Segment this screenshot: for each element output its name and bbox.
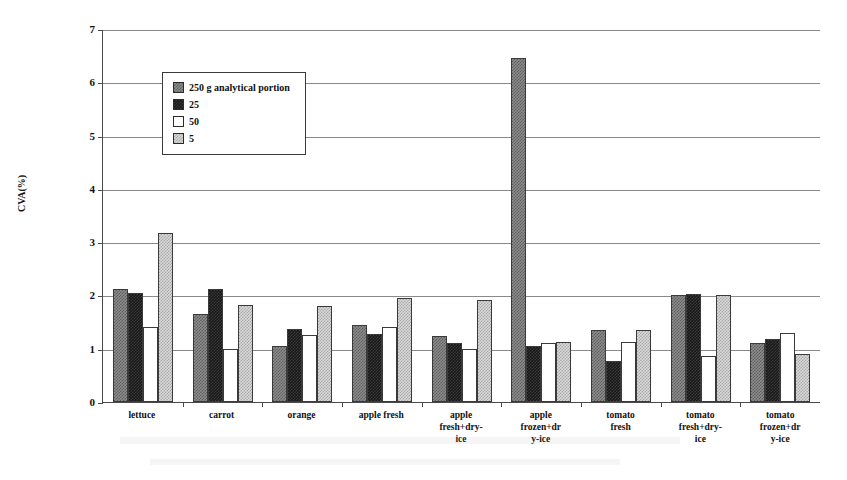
- x-tick-mark: [661, 402, 662, 407]
- bar: [636, 330, 651, 402]
- y-tick-label: 0: [55, 396, 95, 408]
- y-tick-label: 4: [55, 183, 95, 195]
- legend-label: 50: [189, 116, 199, 127]
- legend-swatch-icon: [173, 133, 184, 144]
- y-tick-label: 2: [55, 289, 95, 301]
- x-axis-category-label: tomatofrozen+dry-ice: [740, 409, 820, 445]
- bar: [447, 343, 462, 402]
- x-tick-mark: [740, 402, 741, 407]
- bar: [701, 356, 716, 402]
- bar-group: [342, 30, 422, 402]
- bar: [272, 346, 287, 402]
- legend-item-50: 50: [173, 113, 297, 130]
- bar: [113, 289, 128, 402]
- bar: [686, 294, 701, 402]
- bar: [462, 349, 477, 402]
- bar: [511, 58, 526, 402]
- legend-swatch-icon: [173, 99, 184, 110]
- legend-label: 250 g analytical portion: [189, 82, 290, 93]
- bar: [208, 289, 223, 402]
- bar: [352, 325, 367, 402]
- chart-legend: 250 g analytical portion 25 50 5: [162, 72, 306, 155]
- scan-artifact: [120, 437, 680, 444]
- bar: [765, 339, 780, 402]
- bar: [541, 343, 556, 402]
- bar: [621, 342, 636, 402]
- y-tick-label: 1: [55, 343, 95, 355]
- bar-group: [501, 30, 581, 402]
- x-tick-mark: [183, 402, 184, 407]
- bar-group: [422, 30, 502, 402]
- bar: [367, 334, 382, 402]
- bar: [795, 354, 810, 402]
- bar: [158, 233, 173, 402]
- bar: [128, 293, 143, 402]
- bar: [287, 329, 302, 402]
- bar: [671, 295, 686, 402]
- bar: [606, 361, 621, 402]
- bar: [750, 343, 765, 402]
- bar: [317, 306, 332, 402]
- legend-label: 25: [189, 99, 199, 110]
- bar: [382, 327, 397, 402]
- bar: [526, 346, 541, 402]
- bar: [302, 335, 317, 402]
- y-tick-label: 7: [55, 23, 95, 35]
- x-tick-mark: [342, 402, 343, 407]
- bar: [716, 295, 731, 402]
- legend-item-25: 25: [173, 96, 297, 113]
- legend-swatch-icon: [173, 116, 184, 127]
- x-tick-mark: [422, 402, 423, 407]
- bar: [223, 349, 238, 402]
- bar: [143, 327, 158, 402]
- legend-item-250g: 250 g analytical portion: [173, 79, 297, 96]
- bar: [397, 298, 412, 402]
- y-tick-label: 3: [55, 236, 95, 248]
- x-tick-mark: [581, 402, 582, 407]
- y-tick-mark: [98, 403, 103, 404]
- legend-swatch-icon: [173, 82, 184, 93]
- y-axis-title: CVA(%): [16, 175, 27, 212]
- bar: [591, 330, 606, 402]
- bar-group: [661, 30, 741, 402]
- legend-item-5: 5: [173, 130, 297, 147]
- bar-group: [740, 30, 820, 402]
- legend-label: 5: [189, 133, 194, 144]
- bar: [477, 300, 492, 402]
- x-tick-mark: [501, 402, 502, 407]
- y-tick-label: 6: [55, 76, 95, 88]
- bar: [193, 314, 208, 402]
- bar: [780, 333, 795, 402]
- x-tick-mark: [262, 402, 263, 407]
- bar: [432, 336, 447, 402]
- bar: [238, 305, 253, 403]
- scan-artifact: [150, 459, 620, 465]
- bar-group: [581, 30, 661, 402]
- bar-chart: CVA(%) 01234567 lettucecarrotorangeapple…: [0, 0, 847, 480]
- bar: [556, 342, 571, 402]
- y-tick-label: 5: [55, 130, 95, 142]
